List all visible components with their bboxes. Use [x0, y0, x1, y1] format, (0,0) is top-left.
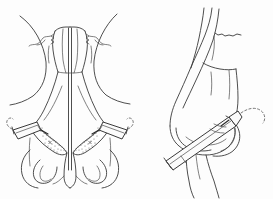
upper-lateral-cartilage-lateral — [203, 63, 236, 95]
anatomical-figure: Nasal tip injection technique frontal (a… — [0, 0, 273, 199]
nasal-bones — [51, 29, 89, 73]
lower-lateral-cartilages — [33, 124, 108, 155]
nostrils-frontal — [21, 150, 118, 188]
cheek-contours — [10, 14, 130, 105]
columella-frontal — [53, 153, 87, 188]
nasal-root — [55, 27, 85, 31]
panel-lateral — [164, 8, 265, 198]
columella-lip-lateral — [186, 152, 219, 198]
forehead-contour — [191, 8, 204, 68]
suture-lines — [29, 36, 111, 63]
nasal-dorsum-midline — [69, 28, 72, 170]
upper-lateral-cartilages — [35, 72, 105, 124]
illustration-canvas — [0, 0, 273, 199]
nasal-bone-lateral — [212, 33, 241, 60]
panel-frontal — [7, 14, 134, 188]
